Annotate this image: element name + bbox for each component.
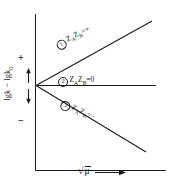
radical-sign-icon: √ xyxy=(78,165,84,176)
y-axis-negative-arrow xyxy=(26,89,31,104)
curve-2-relation: =0 xyxy=(86,75,94,84)
kinetic-salt-effect-figure: lgk − lgk0 + − √μ 1ZAZB=+ 2ZAZB=0 3ZAZB=… xyxy=(0,0,174,189)
curve-label-2: 2ZAZB=0 xyxy=(58,76,94,87)
y-axis-plus-marker: + xyxy=(18,53,24,63)
x-axis-label: √μ xyxy=(78,166,91,177)
x-axis-radicand: μ xyxy=(85,166,91,177)
y-axis-label-subscript: 0 xyxy=(7,67,14,70)
curve-marker-2: 2 xyxy=(58,77,68,87)
y-axis-label: lgk − lgk0 xyxy=(3,58,14,110)
y-axis-minus-marker: − xyxy=(18,116,24,126)
y-axis-label-main: lgk − lgk xyxy=(2,70,12,101)
y-axis-positive-arrow xyxy=(26,68,31,83)
